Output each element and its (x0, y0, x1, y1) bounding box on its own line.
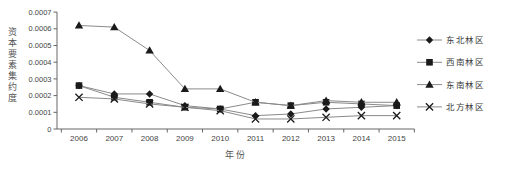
series-marker-0 (146, 90, 153, 97)
x-tick-label: 2014 (353, 134, 371, 143)
series-marker-0 (322, 105, 329, 112)
y-tick-label: 0.0004 (29, 58, 52, 67)
y-tick-label: 0.0003 (29, 75, 52, 84)
x-tick-label: 2015 (388, 134, 406, 143)
legend-label-3: 北方林区 (446, 102, 484, 112)
diamond-icon (426, 36, 433, 43)
series-marker-2 (393, 98, 401, 105)
x-tick-label: 2012 (282, 134, 300, 143)
y-tick-label: 0 (47, 125, 51, 134)
triangle-icon (425, 80, 433, 87)
series-marker-2 (216, 85, 224, 92)
y-tick-label: 0.0002 (29, 91, 52, 100)
y-tick-label: 0.0005 (29, 41, 52, 50)
square-icon (426, 59, 433, 66)
y-tick-label: 0.0006 (29, 24, 52, 33)
x-tick-label: 2006 (70, 134, 88, 143)
x-tick-label: 2008 (141, 134, 159, 143)
x-tick-label: 2007 (105, 134, 123, 143)
series-line-1 (79, 86, 397, 109)
series-marker-2 (75, 21, 83, 28)
x-tick-label: 2009 (176, 134, 194, 143)
y-tick-label: 0.0001 (29, 108, 52, 117)
y-tick-label: 0.0007 (29, 8, 52, 17)
x-axis-label: 年份 (57, 148, 414, 161)
y-axis-label: 资本要素集约度 (6, 27, 19, 127)
x-tick-label: 2010 (211, 134, 229, 143)
legend-label-0: 东北林区 (446, 35, 484, 45)
legend-label-1: 西南林区 (446, 57, 484, 67)
x-tick-label: 2013 (317, 134, 335, 143)
series-marker-2 (145, 46, 153, 53)
chart-container: 00.00010.00020.00030.00040.00050.00060.0… (0, 0, 507, 174)
legend-label-2: 东南林区 (446, 80, 484, 90)
x-tick-label: 2011 (247, 134, 265, 143)
series-marker-1 (76, 82, 83, 89)
